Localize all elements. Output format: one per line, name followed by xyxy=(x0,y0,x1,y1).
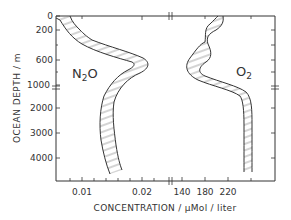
o2-band xyxy=(187,16,252,172)
x-axis-ticks xyxy=(70,16,251,181)
x-tick-0-02: 0.02 xyxy=(132,187,152,197)
y-tick-200: 200 xyxy=(36,25,53,35)
y-tick-600: 600 xyxy=(36,55,53,65)
y-tick-labels: 0 200 600 1000 2000 3000 4000 xyxy=(27,11,53,163)
y-tick-3000: 3000 xyxy=(30,128,53,138)
y-tick-1000: 1000 xyxy=(27,80,50,90)
o2-series xyxy=(187,16,252,172)
x-tick-220: 220 xyxy=(219,187,236,197)
x-tick-140: 140 xyxy=(173,187,190,197)
x-tick-0-01: 0.01 xyxy=(72,187,92,197)
x-axis-break-icon xyxy=(169,12,172,185)
x-tick-labels: 0.01 0.02 140 180 220 xyxy=(72,187,237,197)
n2o-label: N2O xyxy=(72,66,98,83)
n2o-series xyxy=(56,16,148,174)
y-tick-2000: 2000 xyxy=(30,103,53,113)
y-tick-4000: 4000 xyxy=(30,153,53,163)
y-tick-0: 0 xyxy=(47,11,53,21)
x-axis-label: CONCENTRATION / µMol / liter xyxy=(94,203,237,213)
x-tick-180: 180 xyxy=(196,187,213,197)
depth-profile-chart: 0 200 600 1000 2000 3000 4000 0.01 0.02 … xyxy=(0,0,291,220)
n2o-band xyxy=(56,16,148,174)
y-axis-label: OCEAN DEPTH / m xyxy=(12,53,22,143)
o2-label: O2 xyxy=(236,64,252,81)
y-axis-break-icon xyxy=(52,86,279,89)
